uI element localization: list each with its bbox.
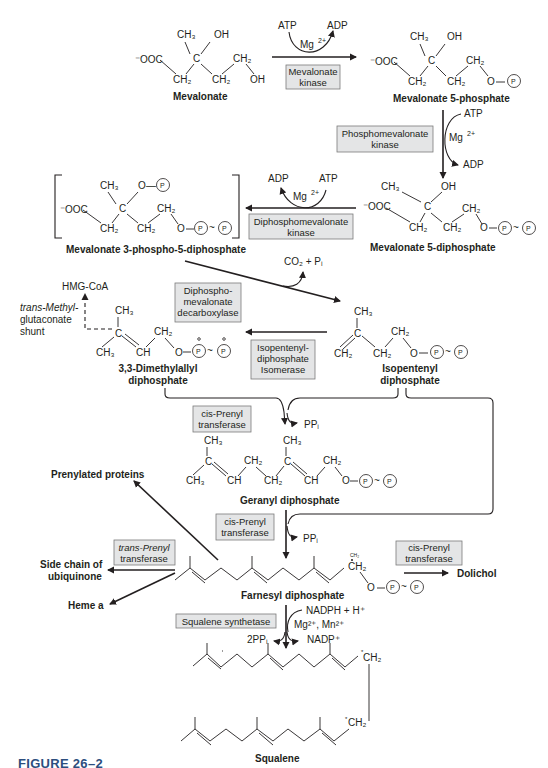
svg-text:~: ~ (445, 346, 451, 357)
svg-text:OH: OH (447, 31, 462, 42)
svg-text:Mevalonate: Mevalonate (288, 66, 337, 77)
svg-text:ATP: ATP (464, 108, 483, 119)
svg-text:⁻OOC: ⁻OOC (60, 204, 88, 215)
svg-text:P: P (414, 584, 419, 591)
svg-text:trans-Prenyl: trans-Prenyl (118, 542, 170, 553)
mevalonate-3-phospho-5-diphosphate-structure: CH₃ O — P ⁻OOC C CH₂ CH₂ CH₂ O P ~ P Mev… (55, 175, 246, 255)
svg-text:C: C (424, 201, 431, 212)
svg-text:P: P (458, 349, 463, 356)
svg-text:CH₂: CH₂ (409, 222, 427, 233)
svg-text:CH₃: CH₃ (283, 435, 302, 446)
decarboxylase-step: CO₂ + Pᵢ Diphospho- mevalonate decarboxy… (175, 256, 340, 322)
svg-text:cis-Prenyl: cis-Prenyl (408, 542, 450, 553)
svg-text:Isomerase: Isomerase (261, 364, 305, 375)
svg-text:2+: 2+ (311, 189, 319, 196)
hmg-coa-label: HMG-CoA (62, 281, 108, 292)
svg-text:CH₃: CH₃ (177, 29, 196, 40)
svg-text:CH₂: CH₂ (363, 652, 381, 663)
svg-text:CH₂: CH₂ (391, 326, 409, 337)
svg-text:kinase: kinase (371, 139, 398, 150)
svg-text:transferase: transferase (405, 553, 453, 564)
svg-text:cis-Prenyl: cis-Prenyl (201, 408, 243, 419)
svg-text:O: O (367, 582, 375, 593)
svg-text:P: P (196, 348, 201, 355)
svg-text:Phosphomevalonate: Phosphomevalonate (342, 128, 429, 139)
svg-text:Squalene synthetase: Squalene synthetase (182, 616, 271, 627)
svg-text:Mg: Mg (300, 39, 314, 50)
svg-text:P: P (221, 348, 226, 355)
figure-caption: FIGURE 26–2 (18, 756, 103, 768)
svg-text:~: ~ (374, 475, 380, 486)
svg-text:Mg: Mg (449, 132, 463, 143)
svg-text:CH₃: CH₃ (100, 180, 119, 191)
svg-text:ADP: ADP (268, 173, 289, 184)
svg-text:P: P (511, 78, 516, 85)
svg-text:P: P (502, 225, 507, 232)
svg-text:CH₃: CH₃ (381, 181, 400, 192)
svg-text:NADPH + H⁺: NADPH + H⁺ (306, 605, 365, 616)
svg-text:ATP: ATP (319, 173, 338, 184)
mevalonate-pathway-diagram: CH₃ OH ⁻OOC C CH₂ CH₂ CH₂ OH Mevalonate … (0, 0, 548, 768)
svg-text:CH₂: CH₂ (212, 74, 230, 85)
svg-text:CH₂: CH₂ (154, 326, 172, 337)
svg-text:C: C (193, 53, 200, 64)
phosphomevalonate-kinase-step: ATP Mg 2+ ADP Phosphomevalonate kinase (337, 108, 484, 178)
mevalonate-5-diphosphate-label: Mevalonate 5-diphosphate (370, 242, 496, 253)
svg-text:CH₂: CH₂ (443, 222, 461, 233)
svg-text:C: C (284, 456, 291, 467)
ubiquinone-label-2: ubiquinone (48, 571, 102, 582)
dimethylallyl-label-1: 3,3-Dimethylallyl (119, 363, 198, 374)
svg-text:~: ~ (207, 345, 213, 356)
svg-text:Diphospho-: Diphospho- (184, 285, 233, 296)
svg-text:⁻OOC: ⁻OOC (370, 56, 398, 67)
squalene-structure: * CH₂ * CH₂ Squalene (181, 643, 381, 764)
svg-text:O: O (342, 475, 350, 486)
svg-text:O: O (410, 348, 418, 359)
svg-text:P: P (526, 225, 531, 232)
svg-text:OH: OH (214, 29, 229, 40)
cis-prenyl-transferase-step-1: PPᵢ cis-Prenyl transferase (165, 388, 398, 432)
svg-text:CH: CH (227, 475, 241, 486)
svg-text:⁻OOC: ⁻OOC (135, 54, 163, 65)
svg-text:CH₂: CH₂ (157, 203, 175, 214)
svg-text:PPᵢ: PPᵢ (304, 419, 319, 430)
svg-text:shunt: shunt (20, 326, 45, 337)
svg-text:ADP: ADP (327, 20, 348, 31)
svg-text:Diphosphomevalonate: Diphosphomevalonate (254, 216, 349, 227)
svg-text:O: O (175, 347, 183, 358)
svg-text:PPᵢ: PPᵢ (303, 533, 318, 544)
dimethylallyl-label-2: diphosphate (128, 375, 188, 386)
svg-text:CO₂ + Pᵢ: CO₂ + Pᵢ (284, 256, 323, 267)
dolichol-label: Dolichol (457, 568, 497, 579)
svg-text:P: P (198, 225, 203, 232)
svg-text:P: P (160, 182, 165, 189)
farnesyl-diphosphate-structure: CH₂ CH₂ O P ~ P Farnesyl diphosphate (175, 552, 424, 601)
svg-text:CH: CH (136, 347, 150, 358)
svg-text:CH₂: CH₂ (348, 717, 366, 728)
svg-text:CH₃: CH₃ (204, 435, 223, 446)
svg-text:CH₃: CH₃ (96, 347, 115, 358)
ubiquinone-label-1: Side chain of (40, 559, 103, 570)
svg-text:2+: 2+ (467, 130, 475, 137)
svg-text:O: O (480, 222, 488, 233)
svg-text:C: C (119, 203, 126, 214)
mevalonate-3-phospho-5-diphosphate-label: Mevalonate 3-phospho-5-diphosphate (66, 244, 246, 255)
mevalonate-structure: CH₃ OH ⁻OOC C CH₂ CH₂ CH₂ OH Mevalonate (135, 29, 265, 102)
svg-text:⁻OOC: ⁻OOC (363, 201, 391, 212)
svg-text:CH₂: CH₂ (408, 76, 426, 87)
svg-text:CH: CH (304, 475, 318, 486)
svg-text:~: ~ (209, 222, 215, 233)
svg-text:C: C (354, 328, 361, 339)
svg-text:transferase: transferase (120, 553, 168, 564)
mevalonate-kinase-step: ATP ADP Mg 2+ Mevalonate kinase (272, 20, 356, 89)
svg-text:CH₂: CH₂ (137, 223, 155, 234)
mevalonate-5-phosphate-structure: CH₃ OH ⁻OOC C CH₂ CH₂ CH₂ O P Mevalonate… (370, 31, 521, 104)
svg-text:CH₂: CH₂ (373, 348, 391, 359)
svg-text:CH₂: CH₂ (233, 53, 251, 64)
svg-text:CH₃: CH₃ (186, 475, 205, 486)
svg-text:CH₃: CH₃ (354, 306, 373, 317)
isopentenyl-diphosphate-structure: CH₃ C CH₂ CH₂ CH₂ O P ~ P Isopentenyl di… (334, 306, 468, 386)
mevalonate-5-phosphate-label: Mevalonate 5-phosphate (393, 93, 510, 104)
svg-text:CH₂: CH₂ (350, 552, 359, 558)
svg-text:glutaconate: glutaconate (20, 314, 72, 325)
